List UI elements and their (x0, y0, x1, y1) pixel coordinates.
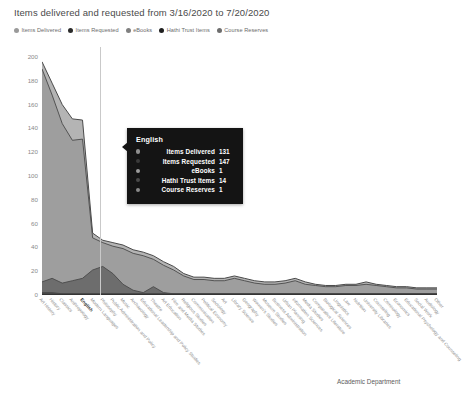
legend-swatch-icon (126, 28, 131, 33)
y-axis-tick-label: 120 (28, 149, 38, 155)
y-axis-tick-label: 40 (31, 244, 38, 250)
x-axis-ticks: Art HistoryHistoryClassicsAnthropologyEn… (42, 297, 437, 387)
x-axis-title: Academic Department (337, 378, 400, 385)
tooltip-row-value: 1 (219, 167, 234, 174)
legend-swatch-icon (159, 28, 164, 33)
y-axis-tick-label: 60 (31, 221, 38, 227)
tooltip-row-value: 14 (219, 177, 234, 184)
chart-legend: Items DeliveredItems RequestedeBooksHath… (14, 27, 268, 33)
hover-indicator-line (100, 47, 101, 295)
legend-swatch-icon (14, 28, 19, 33)
legend-swatch-icon (217, 28, 222, 33)
legend-item[interactable]: Items Requested (68, 27, 119, 33)
tooltip-row: Items Delivered131 (136, 148, 234, 155)
y-axis-tick-label: 100 (28, 173, 38, 179)
y-axis-tick-label: 80 (31, 197, 38, 203)
tooltip-row: Course Reserves1 (136, 186, 234, 193)
tooltip-swatch-icon (136, 188, 140, 192)
tooltip-swatch-icon (136, 149, 140, 153)
y-axis-tick-label: 140 (28, 125, 38, 131)
tooltip-title: English (136, 135, 234, 144)
legend-label: eBooks (133, 27, 152, 33)
tooltip-rows: Items Delivered131Items Requested147eBoo… (136, 148, 234, 193)
page-title: Items delivered and requested from 3/16/… (14, 7, 270, 18)
legend-label: Hathi Trust Items (167, 27, 210, 33)
legend-item[interactable]: Hathi Trust Items (159, 27, 210, 33)
tooltip-row-value: 131 (219, 148, 234, 155)
y-axis-tick-label: 160 (28, 102, 38, 108)
tooltip-row-value: 147 (219, 158, 234, 165)
y-axis-tick-label: 0 (35, 292, 38, 298)
tooltip-row: eBooks1 (136, 167, 234, 174)
legend-label: Items Delivered (22, 27, 62, 33)
tooltip-row-value: 1 (219, 186, 234, 193)
legend-label: Course Reserves (224, 27, 268, 33)
tooltip-row-label: eBooks (144, 167, 215, 174)
x-axis-tick-label[interactable]: Art (221, 297, 229, 305)
tooltip-row: Hathi Trust Items14 (136, 177, 234, 184)
tooltip-swatch-icon (136, 159, 140, 163)
legend-label: Items Requested (76, 27, 119, 33)
legend-item[interactable]: eBooks (126, 27, 152, 33)
tooltip-row: Items Requested147 (136, 158, 234, 165)
tooltip-row-label: Course Reserves (144, 186, 215, 193)
tooltip-row-label: Items Delivered (144, 148, 215, 155)
legend-item[interactable]: Course Reserves (217, 27, 268, 33)
tooltip-row-label: Hathi Trust Items (144, 177, 215, 184)
legend-item[interactable]: Items Delivered (14, 27, 61, 33)
tooltip-row-label: Items Requested (144, 158, 215, 165)
y-axis-ticks: 200180160140120100806040200 (18, 57, 38, 295)
tooltip-swatch-icon (136, 178, 140, 182)
data-tooltip: English Items Delivered131Items Requeste… (127, 128, 243, 204)
tooltip-arrow-icon (122, 142, 128, 152)
legend-swatch-icon (68, 28, 73, 33)
y-axis-tick-label: 20 (31, 268, 38, 274)
y-axis-tick-label: 200 (28, 54, 38, 60)
y-axis-tick-label: 180 (28, 78, 38, 84)
tooltip-swatch-icon (136, 169, 140, 173)
